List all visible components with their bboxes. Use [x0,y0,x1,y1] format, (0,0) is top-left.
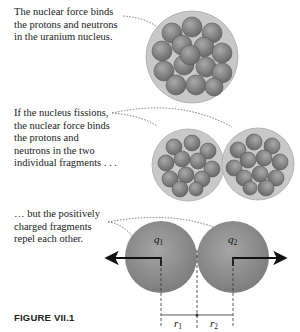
uranium-nucleus [146,11,238,103]
figure-label: FIGURE VII.1 [14,312,74,323]
r2-label: r2 [210,317,218,331]
figure-vii-1: The nuclear force binds the protons and … [0,0,300,332]
charged-fragment-2: q2 [197,221,269,293]
charged-fragment-1: q1 [125,221,197,293]
leader-line [112,108,232,127]
diagram-graphics: q1 q2 r1 r2 [0,0,300,332]
fragment-2 [222,128,294,200]
r1-label: r1 [174,317,182,331]
leader-line [112,113,157,126]
fragment-1 [152,129,224,201]
